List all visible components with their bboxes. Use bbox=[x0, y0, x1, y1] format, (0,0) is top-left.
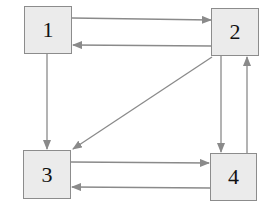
edge-2-to-3 bbox=[73, 57, 212, 149]
node-4: 4 bbox=[210, 153, 257, 201]
edge-4-to-3 bbox=[72, 187, 210, 188]
node-4-label: 4 bbox=[228, 164, 239, 190]
directed-graph-diagram: 1 2 3 4 bbox=[0, 0, 275, 215]
node-2: 2 bbox=[211, 8, 259, 56]
node-3-label: 3 bbox=[42, 162, 53, 188]
node-2-label: 2 bbox=[230, 19, 241, 45]
edge-2-to-1 bbox=[73, 45, 212, 46]
edge-1-to-2 bbox=[72, 18, 211, 20]
node-1-label: 1 bbox=[43, 17, 54, 43]
edge-3-to-4 bbox=[71, 162, 209, 163]
node-3: 3 bbox=[23, 150, 71, 199]
node-1: 1 bbox=[24, 6, 72, 54]
